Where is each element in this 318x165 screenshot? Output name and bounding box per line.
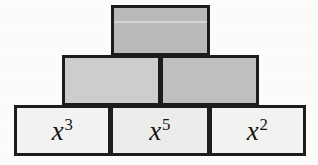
pyramid-block-bottom-left-label: x3 <box>52 118 73 145</box>
pyramid-block-middle-left-label <box>111 68 112 95</box>
pyramid-block-bottom-right-exponent: 2 <box>260 115 269 134</box>
pyramid-block-bottom-right-label: x2 <box>247 118 268 145</box>
pyramid-block-bottom-middle-base: x <box>149 116 161 146</box>
pyramid-block-bottom-right-base: x <box>247 116 259 146</box>
pyramid-block-top[interactable] <box>111 5 210 56</box>
pyramid-block-bottom-left-base: x <box>52 116 64 146</box>
pyramid-block-bottom-middle-label: x5 <box>149 118 170 145</box>
pyramid-block-bottom-left-exponent: 3 <box>65 115 74 134</box>
block-pyramid-figure: x3 x5 x2 <box>0 0 318 165</box>
pyramid-block-middle-right-label <box>209 68 210 95</box>
pyramid-block-middle-left[interactable] <box>62 55 161 106</box>
pyramid-block-bottom-right[interactable]: x2 <box>209 105 306 156</box>
pyramid-block-bottom-left[interactable]: x3 <box>14 105 111 156</box>
pyramid-block-middle-right[interactable] <box>160 55 259 106</box>
pyramid-block-bottom-middle-exponent: 5 <box>162 115 171 134</box>
pyramid-block-bottom-middle[interactable]: x5 <box>110 105 210 156</box>
pyramid-block-top-label <box>160 18 161 45</box>
